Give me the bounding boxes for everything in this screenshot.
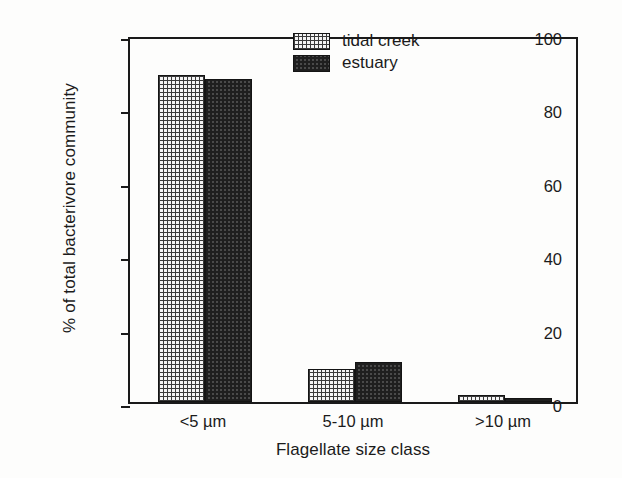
x-axis-tick-label: <5 µm — [123, 412, 283, 431]
y-axis-tick — [121, 112, 130, 114]
x-axis-tick-label: 5-10 µm — [273, 412, 433, 431]
bar-group — [158, 39, 252, 402]
legend-item-estuary: estuary — [293, 52, 419, 74]
legend-swatch-icon — [293, 33, 330, 50]
bar-series-container — [130, 39, 576, 402]
bar-group — [458, 39, 552, 402]
x-axis-title: Flagellate size class — [128, 440, 578, 460]
bar-tidal-creek-1 — [308, 369, 355, 402]
y-axis-title: % of total bacterivore community — [60, 18, 80, 398]
y-axis-tick — [121, 39, 130, 41]
legend-label: tidal creek — [342, 31, 419, 51]
bar-estuary-2 — [505, 398, 552, 402]
y-axis-tick — [121, 259, 130, 261]
bar-tidal-creek-0 — [158, 75, 205, 402]
y-axis-tick — [121, 406, 130, 408]
x-axis-tick-label: >10 µm — [423, 412, 583, 431]
chart-legend: tidal creekestuary — [293, 30, 419, 74]
y-axis-tick — [121, 333, 130, 335]
bar-group — [308, 39, 402, 402]
legend-swatch-icon — [293, 55, 330, 72]
bar-estuary-1 — [355, 362, 402, 402]
legend-item-tidal-creek: tidal creek — [293, 30, 419, 52]
bar-chart-figure: % of total bacterivore community 0204060… — [0, 0, 622, 478]
bar-estuary-0 — [205, 79, 252, 402]
legend-label: estuary — [342, 53, 398, 73]
plot-area: 020406080100 — [128, 37, 578, 404]
y-axis-tick — [121, 186, 130, 188]
bar-tidal-creek-2 — [458, 395, 505, 402]
